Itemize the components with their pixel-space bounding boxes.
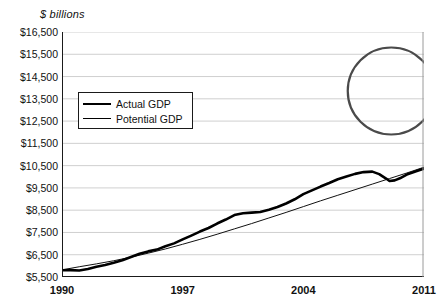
y-tick-label: $15,500 [0,48,58,60]
x-tick-label: 2004 [291,284,315,296]
legend-item-actual-gdp: Actual GDP [83,96,188,111]
y-tick-label: $9,500 [0,182,58,194]
chart-figure: $ billions $16,500$15,500$14,500$13,500$… [0,0,438,302]
legend-swatch-thin-line [83,118,111,119]
y-tick-label: $8,500 [0,204,58,216]
legend-label-actual-gdp: Actual GDP [116,98,171,110]
y-tick-label: $14,500 [0,71,58,83]
y-tick-label: $10,500 [0,160,58,172]
legend-item-potential-gdp: Potential GDP [83,111,188,126]
chart-svg [62,32,424,277]
plot-area [62,32,424,277]
x-tick-label: 1990 [50,284,74,296]
gridlines [62,32,424,277]
x-tick-label: 2011 [412,284,436,296]
y-axis-tick-labels: $16,500$15,500$14,500$13,500$12,500$11,5… [0,0,58,302]
x-tick-label: 1997 [170,284,194,296]
legend-label-potential-gdp: Potential GDP [116,113,183,125]
y-tick-label: $11,500 [0,137,58,149]
y-tick-label: $7,500 [0,226,58,238]
y-tick-label: $12,500 [0,115,58,127]
y-tick-label: $13,500 [0,93,58,105]
y-tick-label: $16,500 [0,26,58,38]
y-tick-label: $5,500 [0,271,58,283]
series-actual-gdp [62,169,424,271]
legend-swatch-thick-line [83,103,111,105]
chart-legend: Actual GDP Potential GDP [78,92,193,129]
y-tick-label: $6,500 [0,249,58,261]
